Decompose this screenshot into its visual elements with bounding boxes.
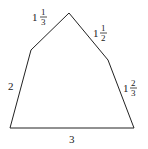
denominator: 3	[131, 88, 136, 98]
side-label-upper-left: 1 1 3	[32, 7, 47, 27]
whole-part: 1	[123, 82, 129, 94]
denominator: 3	[41, 17, 46, 27]
numerator: 1	[41, 7, 46, 17]
whole-part: 1	[32, 11, 38, 23]
side-label-left: 2	[8, 80, 14, 92]
whole-part: 1	[93, 27, 99, 39]
pentagon-diagram: 3 2 1 1 3 1 1 2 1 2 3	[0, 0, 148, 149]
side-label-right: 1 2 3	[123, 78, 137, 98]
numerator: 2	[131, 78, 136, 88]
denominator: 2	[101, 33, 106, 43]
side-label-upper-right: 1 1 2	[93, 23, 107, 43]
pentagon-shape	[10, 13, 134, 128]
numerator: 1	[101, 23, 106, 33]
side-label-bottom: 3	[69, 133, 75, 145]
